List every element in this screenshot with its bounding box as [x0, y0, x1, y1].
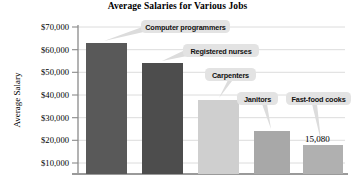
- callout-registered-nurses[interactable]: Registered nurses: [183, 44, 259, 57]
- callout-carpenters[interactable]: Carpenters: [205, 68, 256, 81]
- callout-label: Janitors: [244, 95, 271, 104]
- y-tick-label: $30,000: [41, 113, 69, 123]
- bar-computer-programmers: [86, 43, 127, 174]
- y-tick-label: $40,000: [41, 90, 69, 100]
- y-tick-label: $20,000: [41, 135, 69, 145]
- bar-registered-nurses: [142, 63, 183, 174]
- callout-label: Fast-food cooks: [291, 95, 345, 104]
- leader-line-janitors: [262, 104, 271, 129]
- chart-figure: Average Salaries for Various Jobs Averag…: [0, 0, 355, 196]
- callout-label: Carpenters: [212, 71, 249, 80]
- callout-fast-food-cooks[interactable]: Fast-food cooks: [286, 92, 351, 105]
- callout-janitors[interactable]: Janitors: [237, 92, 278, 105]
- y-tick-label: $60,000: [41, 45, 69, 55]
- data-label-fast-food-cooks: 15,080: [305, 134, 330, 144]
- bar-carpenters: [198, 100, 239, 174]
- y-tick-label: $70,000: [41, 22, 69, 32]
- chart-plot-area: $70,000 $60,000 $50,000 $40,000 $30,000 …: [0, 0, 355, 196]
- y-tick-label: $50,000: [41, 67, 69, 77]
- callout-label: Computer programmers: [145, 23, 226, 32]
- bars: [86, 43, 343, 174]
- callout-computer-programmers[interactable]: Computer programmers: [141, 20, 230, 33]
- callout-label: Registered nurses: [190, 47, 251, 56]
- bar-janitors: [254, 131, 290, 174]
- y-tick-labels: $70,000 $60,000 $50,000 $40,000 $30,000 …: [41, 22, 69, 168]
- y-tick-label: $10,000: [41, 158, 69, 168]
- y-axis: [72, 25, 78, 174]
- bar-fast-food-cooks: [303, 145, 343, 174]
